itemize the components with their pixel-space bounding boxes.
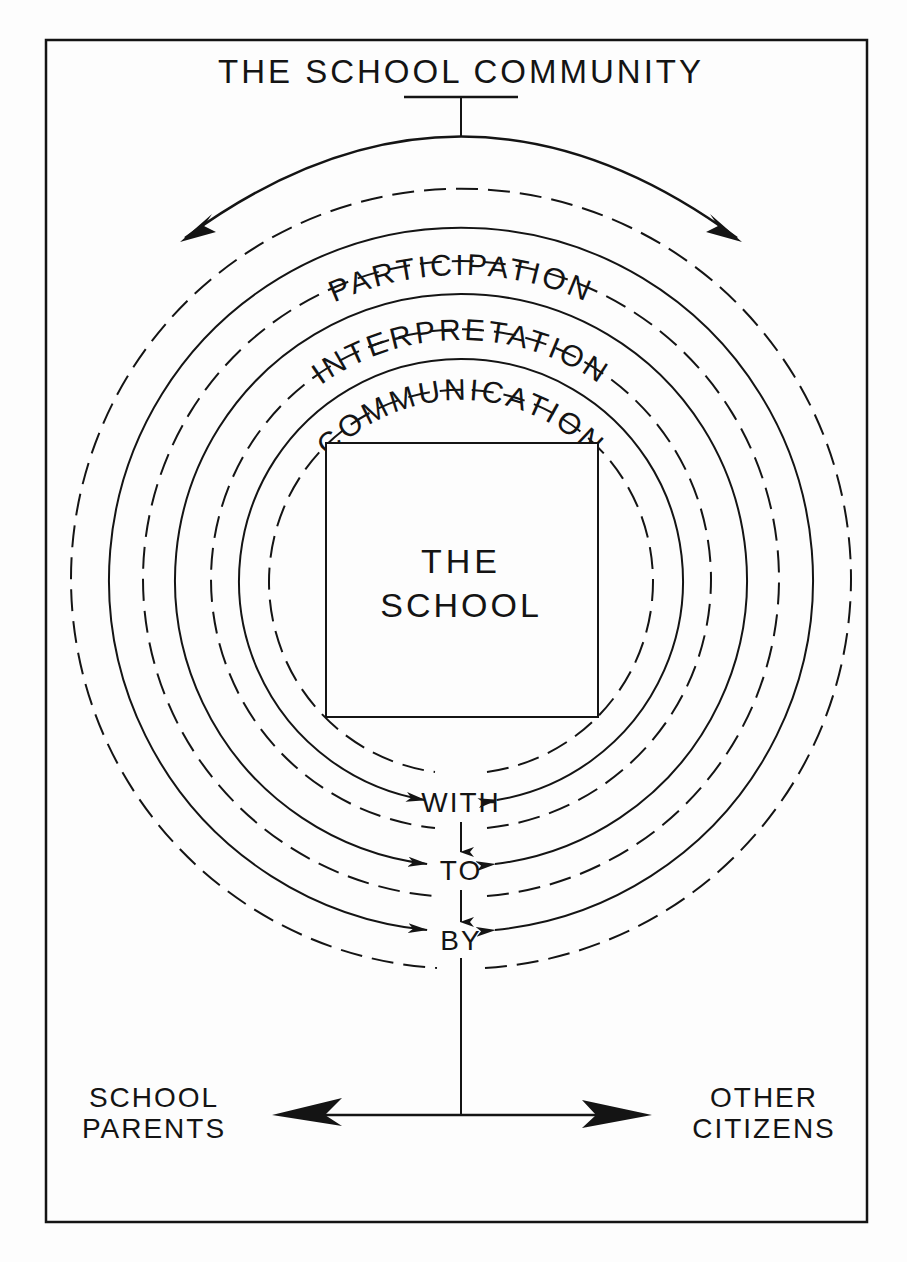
community-spread-arc xyxy=(185,137,737,239)
flow-word-with: WITH xyxy=(421,787,501,818)
diagram-title: THE SCHOOL COMMUNITY xyxy=(186,54,736,90)
school-label-line2: SCHOOL xyxy=(380,586,542,624)
school-label-line1: THE xyxy=(421,542,501,580)
ring-label-participation: PARTICIPATION xyxy=(324,248,599,308)
flow-word-to: TO xyxy=(440,855,482,886)
arrowhead-left-icon xyxy=(272,1098,342,1126)
school-community-diagram: PARTICIPATION INTERPRETATION COMMUNICATI… xyxy=(0,0,907,1262)
arrowhead-left-icon xyxy=(180,214,216,242)
output-school-parents: SCHOOL PARENTS xyxy=(64,1083,244,1145)
output-right-line1: OTHER xyxy=(664,1083,864,1114)
output-left-line1: SCHOOL xyxy=(64,1083,244,1114)
output-other-citizens: OTHER CITIZENS xyxy=(664,1083,864,1145)
flow-word-by: BY xyxy=(440,925,481,956)
diagram-canvas: PARTICIPATION INTERPRETATION COMMUNICATI… xyxy=(0,0,907,1262)
arrowhead-right-icon xyxy=(706,214,742,242)
output-left-line2: PARENTS xyxy=(64,1114,244,1145)
school-box xyxy=(326,443,598,717)
output-right-line2: CITIZENS xyxy=(664,1114,864,1145)
